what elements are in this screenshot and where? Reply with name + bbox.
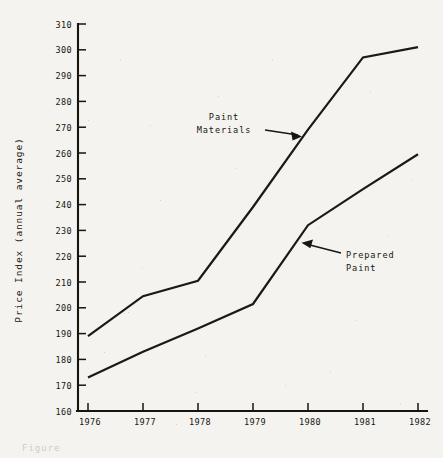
y-tick-label-260: 260 (55, 149, 72, 159)
y-tick-label-230: 230 (55, 226, 72, 236)
x-tick-label-1979: 1979 (244, 417, 266, 427)
annotation-leader-paint-materials (265, 130, 302, 140)
y-tick-label-310: 310 (55, 20, 72, 30)
y-tick-label-290: 290 (55, 71, 72, 81)
figure-caption-partial: Figure (22, 443, 61, 453)
y-tick-label-280: 280 (55, 97, 72, 107)
y-tick-label-180: 180 (55, 355, 72, 365)
x-axis-ticks (88, 403, 418, 411)
annotation-prepared-paint-line1: Prepared (346, 250, 395, 260)
y-tick-label-200: 200 (55, 303, 72, 313)
y-tick-label-270: 270 (55, 123, 72, 133)
annotation-leader-prepared-paint (302, 240, 342, 253)
y-tick-label-210: 210 (55, 278, 72, 288)
y-tick-label-160: 160 (55, 407, 72, 417)
x-tick-label-1981: 1981 (354, 417, 376, 427)
y-axis-title: Price Index (annual average) (13, 137, 24, 322)
series-line-paint-materials (88, 47, 418, 336)
x-tick-label-1980: 1980 (299, 417, 321, 427)
y-tick-label-170: 170 (55, 381, 72, 391)
x-tick-label-1978: 1978 (189, 417, 211, 427)
y-tick-label-220: 220 (55, 252, 72, 262)
x-tick-label-1977: 1977 (134, 417, 156, 427)
annotation-paint-materials-line1: Paint (209, 112, 239, 122)
y-tick-label-300: 300 (55, 45, 72, 55)
y-tick-label-240: 240 (55, 200, 72, 210)
y-axis-ticks (78, 24, 86, 411)
x-tick-label-1982: 1982 (409, 417, 431, 427)
annotation-prepared-paint-line2: Paint (346, 263, 376, 273)
scan-noise (88, 60, 413, 425)
annotation-paint-materials-line2: Materials (197, 125, 252, 135)
chart-figure: 310 300 290 280 270 260 250 240 230 220 … (0, 0, 443, 458)
y-tick-label-250: 250 (55, 174, 72, 184)
x-tick-label-1976: 1976 (79, 417, 101, 427)
y-tick-label-190: 190 (55, 329, 72, 339)
line-chart-canvas: 310 300 290 280 270 260 250 240 230 220 … (0, 0, 443, 458)
